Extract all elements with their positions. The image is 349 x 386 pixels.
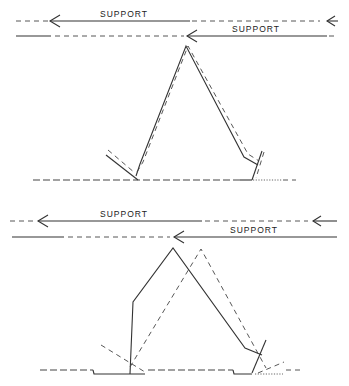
support-label-2: SUPPORT	[232, 24, 280, 34]
foot-dashed-left-bottom	[101, 345, 145, 372]
bottom-panel: SUPPORT SUPPORT	[10, 209, 337, 374]
limb-dashed-outline	[137, 46, 259, 172]
limb-solid-top	[106, 46, 262, 180]
ground-step-right	[233, 370, 252, 374]
limb-solid-bottom	[130, 248, 266, 374]
limb-dashed-outline-bottom	[130, 249, 266, 368]
support-bar-2: SUPPORT	[16, 24, 336, 42]
foot-solid-left	[106, 155, 138, 180]
limb-solid-outline-bottom	[130, 248, 262, 374]
support-label-1: SUPPORT	[100, 9, 148, 19]
limb-dashed-bottom	[101, 249, 284, 373]
top-panel: SUPPORT SUPPORT	[16, 9, 338, 180]
foot-dashed-right-bottom	[258, 362, 284, 373]
foot-solid-right	[252, 151, 262, 180]
ground-step-left	[93, 370, 145, 374]
support-bar-4: SUPPORT	[12, 225, 337, 243]
limb-solid-outline	[136, 46, 258, 176]
limb-dashed-top	[108, 46, 264, 178]
foot-solid-right-bottom	[252, 340, 266, 373]
foot-dashed-left	[108, 150, 135, 173]
support-label-3: SUPPORT	[100, 209, 148, 219]
support-bar-3: SUPPORT	[10, 209, 337, 227]
support-label-4: SUPPORT	[230, 225, 278, 235]
support-bar-1: SUPPORT	[16, 9, 338, 27]
gait-diagram: SUPPORT SUPPORT	[0, 0, 349, 386]
